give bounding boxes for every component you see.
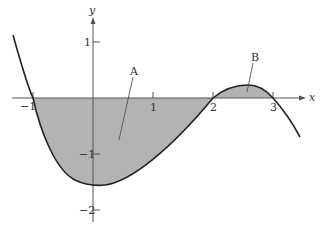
shaded-region-a xyxy=(33,98,213,185)
y-axis-arrow-icon xyxy=(91,17,96,24)
y-tick-label-1: 1 xyxy=(84,36,91,49)
x-tick-label-neg1: −1 xyxy=(20,100,36,113)
x-axis-arrow-icon xyxy=(299,96,306,101)
x-axis-label: x xyxy=(309,91,316,104)
region-label-b: B xyxy=(251,51,259,64)
area-between-curve-diagram: −1 1 2 3 1 −1 −2 x y A B xyxy=(0,0,320,231)
y-axis-label: y xyxy=(88,4,96,17)
region-label-a: A xyxy=(129,65,139,78)
y-tick-label-neg1: −1 xyxy=(79,148,95,161)
y-tick-label-neg2: −2 xyxy=(79,204,95,217)
x-tick-label-3: 3 xyxy=(270,101,277,114)
x-tick-label-1: 1 xyxy=(150,101,157,114)
x-tick-label-2: 2 xyxy=(210,101,217,114)
